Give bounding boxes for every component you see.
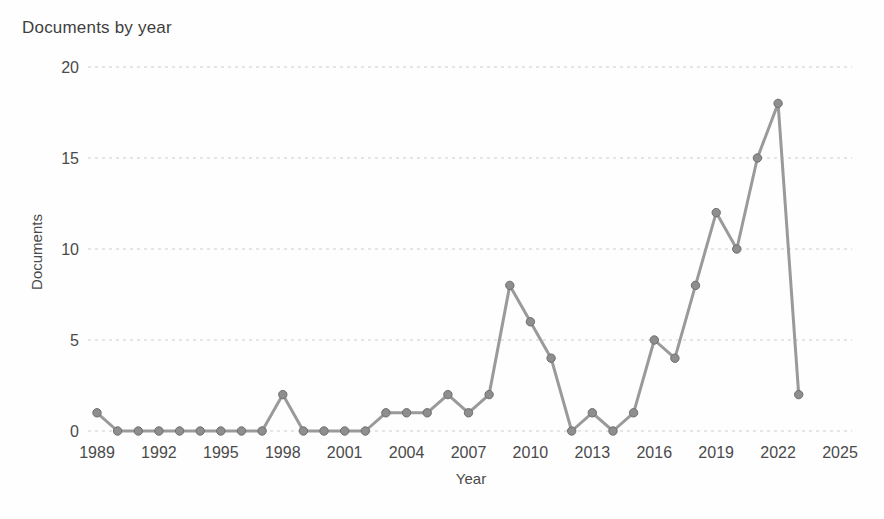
data-point-2020	[733, 245, 741, 253]
data-point-2013	[588, 409, 596, 417]
x-tick-label-2022: 2022	[760, 444, 796, 461]
data-point-2007	[464, 409, 472, 417]
data-point-2000	[320, 427, 328, 435]
data-point-2021	[753, 154, 761, 162]
x-tick-label-1992: 1992	[141, 444, 177, 461]
data-point-2010	[526, 318, 534, 326]
data-point-2008	[485, 390, 493, 398]
data-point-2002	[361, 427, 369, 435]
data-point-1991	[134, 427, 142, 435]
line-chart-plot-area: 0510152019891992199519982001200420072010…	[0, 0, 884, 519]
data-point-2011	[547, 354, 555, 362]
documents-by-year-chart: Documents by year Documents 051015201989…	[0, 0, 884, 519]
x-tick-label-2001: 2001	[327, 444, 363, 461]
data-point-2012	[568, 427, 576, 435]
data-point-2016	[650, 336, 658, 344]
data-point-1992	[155, 427, 163, 435]
x-axis-title: Year	[456, 470, 486, 487]
data-point-1990	[113, 427, 121, 435]
data-point-1995	[217, 427, 225, 435]
data-point-2001	[341, 427, 349, 435]
data-point-2014	[609, 427, 617, 435]
x-tick-label-2025: 2025	[822, 444, 858, 461]
data-point-2006	[444, 390, 452, 398]
y-tick-label-15: 15	[61, 150, 79, 167]
x-tick-label-2019: 2019	[698, 444, 734, 461]
data-point-1996	[237, 427, 245, 435]
x-tick-label-1995: 1995	[203, 444, 239, 461]
y-tick-label-0: 0	[70, 423, 79, 440]
x-tick-label-2004: 2004	[389, 444, 425, 461]
data-point-1989	[93, 409, 101, 417]
data-point-2018	[691, 281, 699, 289]
data-point-2003	[382, 409, 390, 417]
data-point-2015	[629, 409, 637, 417]
y-tick-label-20: 20	[61, 59, 79, 76]
x-tick-label-2016: 2016	[636, 444, 672, 461]
data-point-2022	[774, 99, 782, 107]
data-point-1999	[299, 427, 307, 435]
data-point-1993	[175, 427, 183, 435]
data-point-1998	[279, 390, 287, 398]
x-tick-label-2007: 2007	[451, 444, 487, 461]
data-point-1994	[196, 427, 204, 435]
x-tick-label-1989: 1989	[79, 444, 115, 461]
x-tick-label-2010: 2010	[513, 444, 549, 461]
data-point-2009	[506, 281, 514, 289]
data-point-2004	[402, 409, 410, 417]
data-point-2017	[671, 354, 679, 362]
y-tick-label-10: 10	[61, 241, 79, 258]
data-point-2023	[795, 390, 803, 398]
data-point-2005	[423, 409, 431, 417]
x-tick-label-1998: 1998	[265, 444, 301, 461]
data-point-2019	[712, 208, 720, 216]
data-point-1997	[258, 427, 266, 435]
series-line-documents	[97, 103, 799, 431]
y-tick-label-5: 5	[70, 332, 79, 349]
x-tick-label-2013: 2013	[575, 444, 611, 461]
